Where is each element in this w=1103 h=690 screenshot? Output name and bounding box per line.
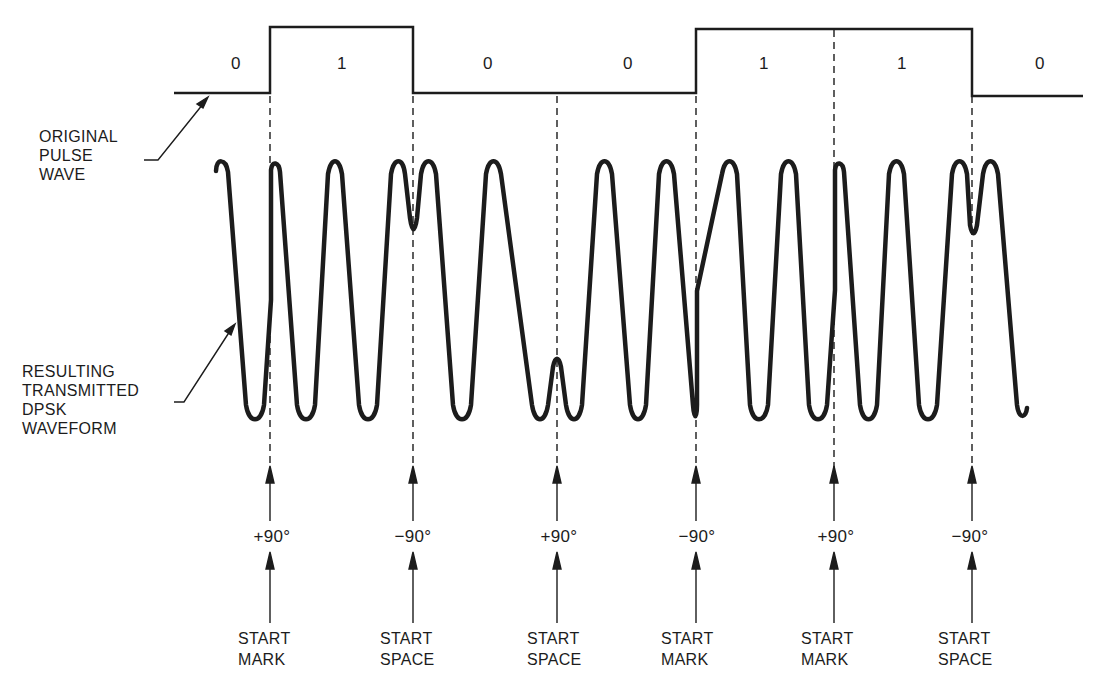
event-label: START MARK: [661, 628, 713, 670]
phase-shift-label: −90°: [952, 527, 989, 546]
dpsk-waveform-label: RESULTING TRANSMITTED DPSK WAVEFORM: [22, 362, 139, 438]
event-label: START MARK: [238, 628, 290, 670]
original-pulse-wave-label: ORIGINAL PULSE WAVE: [39, 127, 118, 184]
phase-shift-label: +90°: [541, 527, 578, 546]
callout-arrows: [144, 97, 235, 402]
bit-label: 1: [337, 54, 347, 73]
bit-label: 0: [1035, 54, 1045, 73]
phase-shift-label: −90°: [395, 527, 432, 546]
phase-shift-label: −90°: [679, 527, 716, 546]
bit-label: 0: [231, 54, 241, 73]
bit-label: 0: [483, 54, 493, 73]
dpsk-waveform: [216, 161, 1027, 419]
transition-arrows: [266, 466, 976, 623]
event-label: START SPACE: [527, 628, 582, 670]
dpsk-diagram: [0, 0, 1103, 690]
bit-label: 1: [759, 54, 769, 73]
bit-label: 0: [623, 54, 633, 73]
phase-shift-label: +90°: [254, 527, 291, 546]
event-label: START MARK: [801, 628, 853, 670]
bit-label: 1: [897, 54, 907, 73]
event-label: START SPACE: [938, 628, 993, 670]
phase-shift-label: +90°: [818, 527, 855, 546]
event-label: START SPACE: [380, 628, 435, 670]
